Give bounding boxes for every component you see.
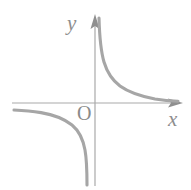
curve-branch-upper-right [99, 18, 178, 101]
graph-canvas [0, 0, 191, 190]
hyperbola-figure: y x O [0, 0, 191, 190]
origin-label: O [77, 103, 91, 123]
y-axis-label: y [67, 13, 76, 34]
x-axis-label: x [168, 109, 177, 130]
